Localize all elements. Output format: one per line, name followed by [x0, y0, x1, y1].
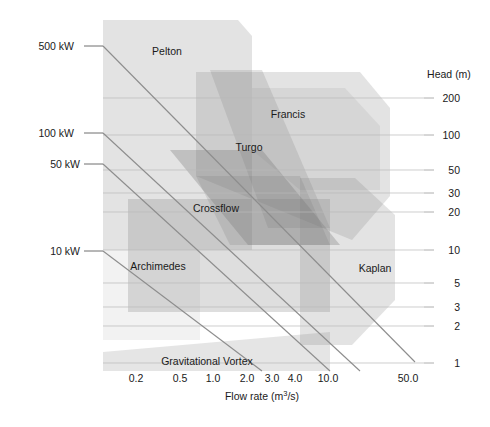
zone-label-kaplan: Kaplan [359, 262, 392, 274]
head-tick-label-200: 200 [442, 92, 460, 104]
power-label-500kw: 500 kW [38, 40, 74, 52]
head-tick-label-3: 3 [454, 301, 460, 313]
head-tick-label-10: 10 [448, 244, 460, 256]
flow-tick-label-2-0: 2.0 [240, 372, 255, 384]
zone-label-pelton: Pelton [152, 45, 182, 57]
zone-label-turgo: Turgo [235, 141, 262, 153]
flow-tick-label-0-2: 0.2 [129, 372, 144, 384]
power-label-10kw: 10 kW [50, 245, 80, 257]
head-tick-label-20: 20 [448, 206, 460, 218]
head-tick-label-100: 100 [442, 129, 460, 141]
head-tick-label-1: 1 [454, 357, 460, 369]
head-axis-title: Head (m) [427, 68, 471, 80]
zone-label-archimedes: Archimedes [130, 260, 185, 272]
zone-label-gravitational-vortex: Gravitational Vortex [161, 355, 253, 367]
head-tick-label-5: 5 [454, 277, 460, 289]
flow-tick-label-4-0: 4.0 [288, 372, 303, 384]
turbine-selection-chart: 500 kW100 kW50 kW10 kW 20010050302010532… [0, 0, 490, 427]
flow-tick-label-50-0: 50.0 [398, 372, 419, 384]
flow-axis-title: Flow rate (m3/s) [225, 389, 299, 402]
flow-axis-title-tail: /s) [287, 390, 299, 402]
chart-canvas: 500 kW100 kW50 kW10 kW 20010050302010532… [0, 0, 490, 427]
flow-tick-label-10-0: 10.0 [318, 372, 339, 384]
flow-tick-label-3-0: 3.0 [265, 372, 280, 384]
power-label-100kw: 100 kW [38, 127, 74, 139]
zone-label-crossflow: Crossflow [193, 202, 240, 214]
head-tick-label-50: 50 [448, 164, 460, 176]
flow-tick-label-1-0: 1.0 [206, 372, 221, 384]
head-tick-label-2: 2 [454, 320, 460, 332]
flow-tick-label-0-5: 0.5 [173, 372, 188, 384]
zone-label-francis: Francis [271, 108, 305, 120]
head-tick-label-30: 30 [448, 187, 460, 199]
power-label-50kw: 50 kW [50, 158, 80, 170]
flow-axis-title-base: Flow rate (m [225, 390, 284, 402]
